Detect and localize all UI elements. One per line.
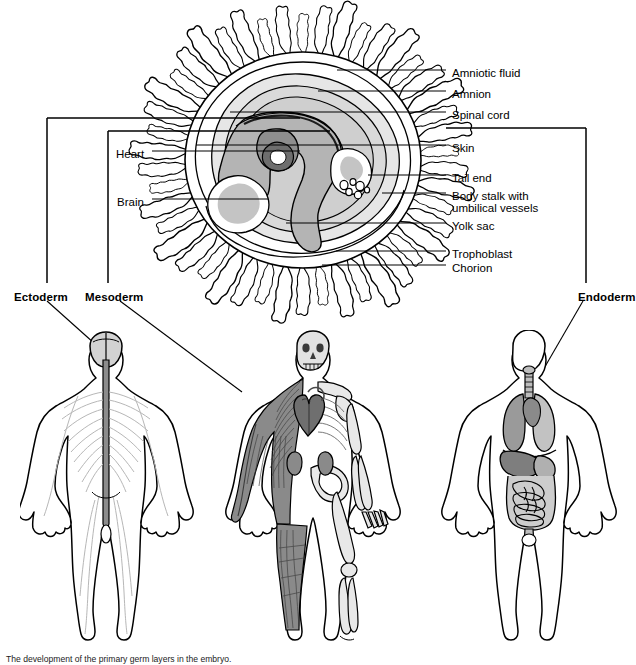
label-yolk-sac: Yolk sac	[452, 220, 494, 233]
chorionic-villus	[148, 176, 190, 196]
label-chorion: Chorion	[452, 262, 492, 275]
chorionic-villus	[296, 266, 311, 316]
label-spinal-cord: Spinal cord	[452, 109, 510, 122]
figure-caption: The development of the primary germ laye…	[6, 654, 626, 664]
label-ectoderm: Ectoderm	[14, 291, 68, 304]
chorionic-villus	[273, 5, 294, 56]
label-heart: Heart	[116, 148, 144, 161]
label-tail-end: Tail end	[452, 172, 492, 185]
label-endoderm: Endoderm	[578, 291, 636, 304]
chorionic-villus	[297, 13, 309, 54]
mesoderm-figure	[226, 331, 400, 640]
label-mesoderm: Mesoderm	[85, 291, 143, 304]
chorionic-villus	[146, 124, 191, 145]
label-amnion: Amnion	[452, 88, 491, 101]
chorionic-villus	[311, 5, 332, 56]
ectoderm-figure	[19, 332, 193, 640]
label-skin: Skin	[452, 142, 474, 155]
label-brain: Brain	[117, 196, 144, 209]
label-amniotic-fluid: Amniotic fluid	[452, 67, 520, 80]
endoderm-figure	[442, 330, 616, 640]
label-body-stalk-2: umbilical vessels	[452, 202, 538, 215]
chorionic-villus	[271, 264, 296, 324]
leader-mesoderm-figure	[120, 301, 242, 392]
label-trophoblast: Trophoblast	[452, 248, 512, 261]
chorionic-villus	[313, 264, 330, 306]
chorionic-villus	[137, 160, 187, 178]
